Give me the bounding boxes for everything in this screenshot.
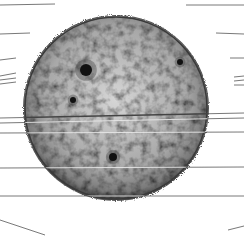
sun-diagram [0, 0, 244, 236]
leader-line [234, 80, 244, 81]
leader-line [0, 33, 30, 34]
leader-line [228, 226, 244, 230]
sunspot [109, 153, 117, 161]
leader-line [0, 58, 16, 60]
sun-disk [23, 15, 209, 201]
sun-illustration [0, 0, 244, 236]
leader-line [216, 33, 244, 34]
leader-line [0, 78, 16, 80]
leader-line [0, 82, 16, 84]
leader-line [0, 220, 45, 235]
sunspot [80, 64, 92, 76]
sunspot [177, 59, 183, 65]
leader-line [0, 4, 55, 5]
leader-line [0, 73, 16, 76]
leader-line [234, 76, 244, 77]
sunspot [70, 97, 76, 103]
